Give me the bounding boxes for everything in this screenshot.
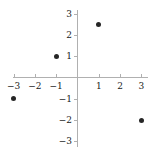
- x-tick-mark: [35, 74, 36, 78]
- y-tick-mark: [74, 56, 78, 57]
- x-tick-label: −2: [28, 82, 41, 91]
- y-tick-label: 3: [66, 9, 72, 18]
- y-tick-mark: [74, 141, 78, 142]
- y-tick-mark: [74, 99, 78, 100]
- y-tick-label: 1: [66, 52, 72, 61]
- y-tick-mark: [74, 14, 78, 15]
- x-tick-label: −3: [7, 82, 20, 91]
- scatter-point: [54, 54, 59, 59]
- scatter-point: [96, 22, 101, 27]
- x-tick-mark: [141, 74, 142, 78]
- scatter-point: [139, 118, 144, 123]
- x-tick-label: 2: [117, 82, 123, 91]
- x-tick-label: 3: [139, 82, 145, 91]
- x-tick-mark: [99, 74, 100, 78]
- y-tick-label: 2: [66, 30, 72, 39]
- y-tick-mark: [74, 120, 78, 121]
- scatter-plot: −3−2−1123321−1−2−3: [0, 0, 164, 157]
- y-tick-label: −3: [59, 137, 72, 146]
- y-tick-mark: [74, 35, 78, 36]
- x-tick-label: 1: [96, 82, 102, 91]
- y-tick-label: −1: [59, 94, 72, 103]
- x-axis-line: [13, 77, 148, 78]
- y-axis-line: [77, 10, 78, 147]
- x-tick-mark: [56, 74, 57, 78]
- x-tick-label: −1: [50, 82, 63, 91]
- x-tick-mark: [14, 74, 15, 78]
- scatter-point: [11, 96, 16, 101]
- x-tick-mark: [120, 74, 121, 78]
- y-tick-label: −2: [59, 116, 72, 125]
